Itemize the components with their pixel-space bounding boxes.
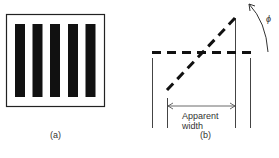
rotation-arrow (249, 4, 268, 52)
panel-b-diagram (152, 4, 268, 128)
apparent-width-label: Apparent width (182, 111, 219, 131)
panel-b-caption: (b) (200, 130, 211, 140)
grating-figure (0, 0, 279, 158)
grating-bar-5 (86, 24, 96, 97)
grating-bar-3 (50, 24, 60, 97)
apparent-width-label-line1: Apparent (182, 111, 219, 121)
panel-a-caption: (a) (50, 130, 61, 140)
grating-bar-4 (68, 24, 78, 97)
angle-phi-label: ϕ (266, 14, 271, 24)
apparent-width-arrow (168, 103, 235, 109)
grating-bar-2 (33, 24, 43, 97)
panel-a-grating (7, 15, 105, 107)
rotated-dashed-grating (167, 17, 236, 90)
grating-bar-1 (15, 24, 25, 97)
